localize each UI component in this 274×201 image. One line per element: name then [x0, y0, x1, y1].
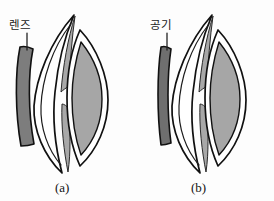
panel-b-caption: (b) — [191, 180, 206, 195]
figure-canvas: 렌즈 (a) 공기 (b) — [0, 0, 274, 201]
eye-optics-figure: 렌즈 (a) 공기 (b) — [0, 0, 274, 201]
air-label: 공기 — [150, 18, 172, 32]
lens-label: 렌즈 — [9, 18, 31, 32]
panel-a-caption: (a) — [55, 180, 69, 195]
